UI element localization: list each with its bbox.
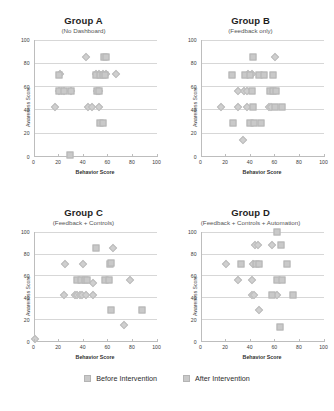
y-axis-ticks: 020406080100 xyxy=(17,232,32,342)
legend-item-after: After Intervention xyxy=(183,374,250,383)
x-tick-label: 60 xyxy=(104,344,110,350)
x-tick-mark xyxy=(274,154,275,157)
x-tick-mark xyxy=(274,339,275,342)
data-point xyxy=(99,120,106,127)
data-point xyxy=(248,87,255,94)
y-tick-label: 20 xyxy=(191,130,197,136)
x-tick-mark xyxy=(132,339,133,342)
data-point xyxy=(96,87,103,94)
data-point xyxy=(60,87,67,94)
data-point xyxy=(250,120,257,127)
after-marker-icon xyxy=(183,375,190,382)
x-tick-mark xyxy=(201,339,202,342)
data-point xyxy=(277,241,284,248)
data-point xyxy=(279,276,286,283)
y-tick-label: 100 xyxy=(188,37,197,43)
x-tick-label: 80 xyxy=(129,344,135,350)
x-tick-label: 40 xyxy=(80,344,86,350)
gridline xyxy=(202,133,324,134)
y-tick-label: 20 xyxy=(24,130,30,136)
x-axis-label: Behavior Score xyxy=(34,354,157,360)
panel-group-b: Group B (Feedback only) Awareness Score0… xyxy=(167,0,334,196)
x-tick-mark xyxy=(250,154,251,157)
data-point xyxy=(270,71,277,78)
plot-area-group-a: Awareness Score020406080100020406080100B… xyxy=(9,40,159,175)
gridline xyxy=(35,63,157,64)
panel-group-d: Group D (Feedback + Controls + Automatio… xyxy=(167,196,334,372)
data-point xyxy=(276,323,283,330)
data-point xyxy=(230,120,237,127)
data-point xyxy=(239,136,248,145)
data-point xyxy=(103,54,110,61)
data-point xyxy=(270,53,279,62)
x-tick-mark xyxy=(157,154,158,157)
data-point xyxy=(268,240,277,249)
data-point xyxy=(237,261,244,268)
y-tick-label: 60 xyxy=(191,273,197,279)
x-tick-mark xyxy=(34,154,35,157)
y-tick-label: 0 xyxy=(27,154,30,160)
data-point xyxy=(249,54,256,61)
y-tick-label: 60 xyxy=(191,84,197,90)
data-point xyxy=(119,321,128,330)
gridline xyxy=(202,297,324,298)
data-point xyxy=(92,245,99,252)
y-tick-label: 20 xyxy=(191,317,197,323)
x-tick-label: 20 xyxy=(55,159,61,165)
plot-area-group-b: Awareness Score020406080100020406080100B… xyxy=(176,40,326,175)
data-point xyxy=(30,335,39,344)
x-tick-mark xyxy=(157,339,158,342)
y-tick-label: 100 xyxy=(188,229,197,235)
data-point xyxy=(108,260,115,267)
legend-item-before: Before Intervention xyxy=(84,374,157,383)
y-tick-label: 60 xyxy=(24,84,30,90)
panel-title: Group D xyxy=(231,208,270,218)
data-point xyxy=(271,104,278,111)
y-tick-label: 80 xyxy=(191,251,197,257)
y-axis-ticks: 020406080100 xyxy=(184,232,199,342)
legend-label-before: Before Intervention xyxy=(96,374,157,383)
data-point xyxy=(105,276,112,283)
x-tick-mark xyxy=(83,154,84,157)
data-point xyxy=(108,244,117,253)
x-tick-mark xyxy=(107,339,108,342)
x-tick-mark xyxy=(58,154,59,157)
data-point xyxy=(258,120,265,127)
data-point xyxy=(83,276,90,283)
gridline xyxy=(35,232,157,233)
data-point xyxy=(102,71,109,78)
y-tick-label: 80 xyxy=(24,251,30,257)
x-tick-label: 40 xyxy=(247,344,253,350)
gridline xyxy=(35,40,157,41)
before-marker-icon xyxy=(84,375,91,382)
panel-subtitle: (Feedback + Controls) xyxy=(53,220,114,227)
data-point xyxy=(66,151,73,158)
x-tick-label: 80 xyxy=(296,344,302,350)
y-tick-label: 100 xyxy=(21,229,30,235)
gridline xyxy=(202,275,324,276)
x-tick-label: 100 xyxy=(319,159,328,165)
data-point xyxy=(254,306,263,315)
x-tick-mark xyxy=(299,339,300,342)
panel-title: Group A xyxy=(64,16,102,26)
data-point xyxy=(222,260,231,269)
data-point xyxy=(290,291,297,298)
data-point xyxy=(79,260,88,269)
data-point xyxy=(234,275,243,284)
data-point xyxy=(269,291,276,298)
gridline xyxy=(35,254,157,255)
x-tick-mark xyxy=(250,339,251,342)
gridline xyxy=(35,275,157,276)
x-tick-label: 100 xyxy=(152,344,161,350)
x-tick-label: 60 xyxy=(104,159,110,165)
y-tick-label: 0 xyxy=(27,339,30,345)
data-point xyxy=(247,275,256,284)
x-axis-label: Behavior Score xyxy=(201,354,324,360)
gridline xyxy=(35,319,157,320)
chart-legend: Before Intervention After Intervention xyxy=(0,374,334,383)
x-tick-mark xyxy=(324,339,325,342)
y-axis-ticks: 020406080100 xyxy=(184,40,199,157)
gridline xyxy=(35,297,157,298)
x-tick-mark xyxy=(58,339,59,342)
data-point xyxy=(274,228,281,235)
